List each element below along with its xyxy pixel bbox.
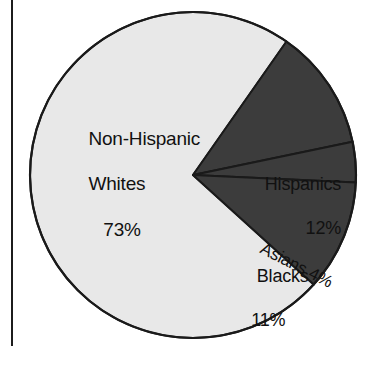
slice-value-blacks: 11%	[228, 310, 309, 331]
slice-label-blacks: Blacks 11%	[228, 245, 309, 369]
slice-label-blacks-text: Blacks	[257, 266, 309, 286]
slice-label-hispanics-text: Hispanics	[265, 174, 341, 194]
slice-label-non-hispanic-whites: Non-Hispanic Whites 73%	[58, 106, 200, 286]
slice-label-non-hispanic-whites-line1: Non-Hispanic	[88, 128, 200, 149]
slice-value-non-hispanic-whites: 73%	[58, 219, 200, 241]
pie-chart-figure: Non-Hispanic Whites 73% Hispanics 12% As…	[0, 0, 384, 369]
slice-label-non-hispanic-whites-line2: Whites	[88, 173, 145, 194]
chart-plot-area: Non-Hispanic Whites 73% Hispanics 12% As…	[0, 0, 384, 369]
